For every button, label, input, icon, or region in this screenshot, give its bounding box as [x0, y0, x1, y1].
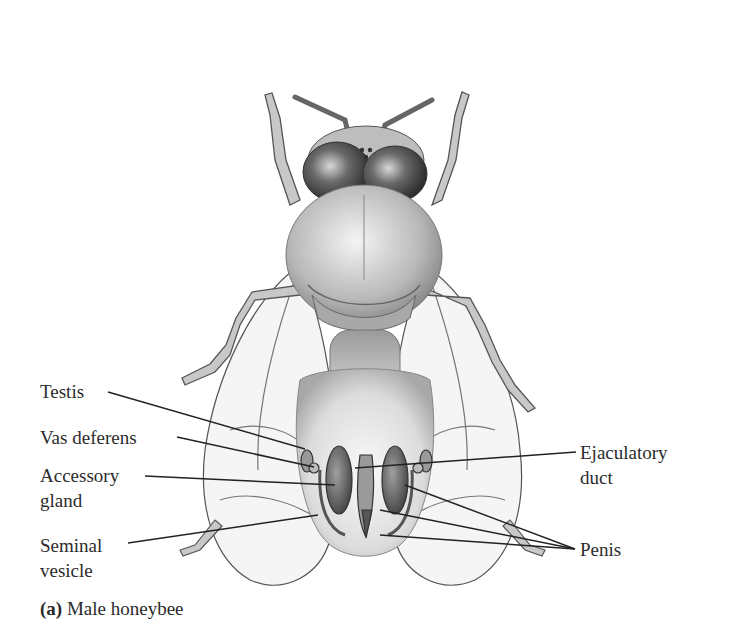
label-accessory-gland-line1: Accessory	[40, 464, 119, 488]
honeybee-illustration	[0, 0, 744, 633]
label-ejaculatory-duct-line1: Ejaculatory	[580, 441, 668, 465]
label-ejaculatory-duct-line2: duct	[580, 466, 613, 490]
label-accessory-gland-line2: gland	[40, 489, 82, 513]
label-seminal-vesicle-line1: Seminal	[40, 534, 102, 558]
figure-caption: (a) Male honeybee	[40, 598, 184, 620]
label-seminal-vesicle-line2: vesicle	[40, 559, 93, 583]
label-testis: Testis	[40, 380, 84, 404]
caption-text: Male honeybee	[67, 598, 184, 619]
caption-panel-letter: (a)	[40, 598, 62, 619]
label-penis: Penis	[580, 538, 621, 562]
honeybee-figure: Testis Vas deferens Accessory gland Semi…	[0, 0, 744, 633]
label-vas-deferens: Vas deferens	[40, 426, 137, 450]
